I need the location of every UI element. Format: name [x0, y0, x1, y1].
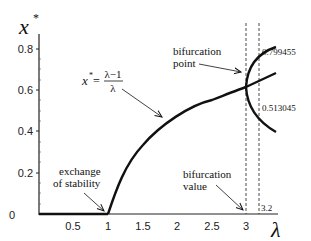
bifurcation-point-label: point: [173, 57, 196, 69]
x-tick-label: 2: [174, 220, 180, 232]
formula-denominator: λ: [110, 82, 116, 94]
x-tick-label: 2.5: [204, 220, 219, 232]
bifurcation-chart: 0.8 0.6 0.4 0.2 0 0.5 1 1.5 2 2.5 3 x * …: [0, 0, 311, 241]
x-tick-label: 1.5: [135, 220, 150, 232]
x-tick-label: 0.5: [65, 220, 80, 232]
exchange-of-stability-label: of stability: [53, 177, 101, 189]
y-tick-label: 0.2: [18, 167, 33, 179]
y-tick-label: 0.4: [18, 125, 33, 137]
series-fixed-point-curve: [108, 73, 276, 214]
y-tick-label: 0.6: [18, 84, 33, 96]
x-tick-label: 3: [243, 220, 249, 232]
y-tick-label: 0.8: [18, 43, 33, 55]
formula-lhs: x: [81, 73, 88, 88]
upper-branch-value: 0.799455: [262, 47, 296, 57]
origin-label: 0: [9, 209, 15, 221]
y-axis-label: x: [18, 14, 29, 39]
bifurcation-value-arrow: [216, 185, 243, 210]
vline-3-2-label: 3.2: [261, 203, 272, 213]
formula-numerator: λ−1: [104, 68, 121, 80]
bifurcation-point-label: bifurcation: [173, 45, 222, 57]
x-tick-label: 1: [105, 220, 111, 232]
lower-branch-value: 0.513045: [262, 103, 296, 113]
exchange-of-stability-arrow: [84, 193, 104, 211]
formula-annotation: x * = λ−1 λ: [81, 68, 123, 94]
exchange-of-stability-label: exchange: [59, 165, 101, 177]
formula-arrow: [122, 89, 162, 117]
formula-eq: =: [93, 74, 100, 88]
x-axis-label: λ: [270, 217, 281, 241]
bifurcation-value-label: value: [183, 180, 207, 192]
bifurcation-point-arrow: [199, 64, 241, 72]
bifurcation-value-label: bifurcation: [183, 168, 232, 180]
y-axis-star: *: [33, 11, 39, 25]
